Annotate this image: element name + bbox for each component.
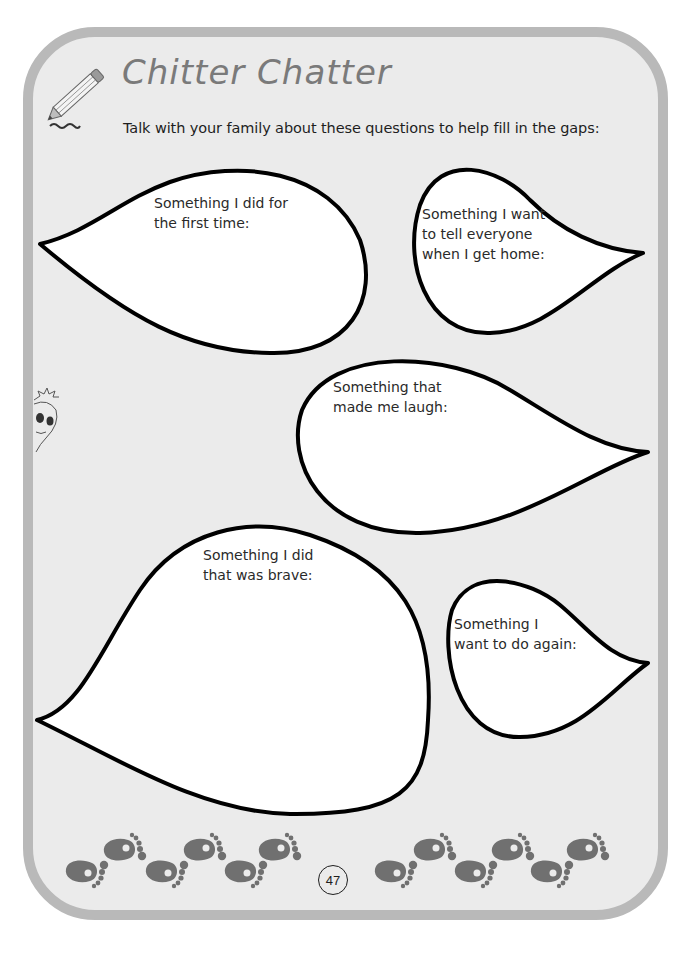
footprint-icon [455, 861, 497, 889]
footprint-icon [259, 833, 301, 861]
answer-bubble-do-again[interactable] [448, 581, 648, 737]
page-title: Chitter Chatter [122, 52, 392, 92]
worksheet-artwork [0, 0, 698, 958]
footprint-icon [492, 833, 534, 861]
footprint-icon [146, 861, 188, 889]
bubble-prompt-brave: Something I did that was brave: [203, 545, 313, 585]
footprint-icon [225, 861, 267, 889]
bubble-prompt-do-again: Something I want to do again: [454, 614, 577, 654]
footprint-icon [184, 833, 226, 861]
footprint-icon [375, 861, 417, 889]
bubble-prompt-laugh: Something that made me laugh: [333, 377, 448, 417]
footprint-icon [414, 833, 456, 861]
footprint-icon [104, 833, 146, 861]
bubble-prompt-tell-everyone: Something I want to tell everyone when I… [422, 204, 545, 264]
page-number: 47 [318, 865, 348, 895]
instructions: Talk with your family about these questi… [123, 120, 599, 136]
footprint-icon [66, 861, 108, 889]
footprint-icon [567, 833, 609, 861]
pencil-icon [44, 68, 104, 128]
footprints-row-top [104, 833, 609, 861]
footprint-icon [531, 861, 573, 889]
bubble-prompt-first-time: Something I did for the first time: [154, 193, 288, 233]
doodle-face-icon [34, 388, 59, 452]
